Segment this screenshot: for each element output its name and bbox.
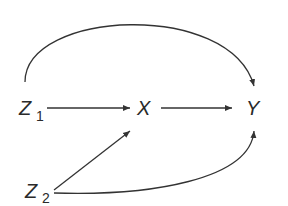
node-z2: Z 2 — [24, 180, 50, 206]
node-z1-label: Z — [18, 97, 32, 119]
edge-z1-to-y — [25, 25, 254, 86]
node-z1: Z 1 — [18, 97, 44, 124]
node-z1-subscript: 1 — [36, 108, 44, 124]
node-y-label: Y — [246, 97, 261, 119]
node-x-label: X — [136, 97, 151, 119]
node-x: X — [136, 97, 151, 119]
edge-z2-to-y — [54, 131, 254, 193]
edge-z2-to-x — [54, 131, 130, 190]
node-z2-label: Z — [24, 180, 38, 202]
causal-diagram: Z 1 X Y Z 2 — [0, 0, 288, 206]
node-z2-subscript: 2 — [42, 190, 50, 206]
node-y: Y — [246, 97, 261, 119]
